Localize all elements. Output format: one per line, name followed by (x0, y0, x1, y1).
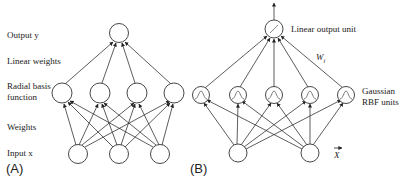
input-node (69, 145, 88, 164)
hidden-node (52, 83, 72, 103)
weight-symbol: W (316, 52, 324, 62)
input-node (151, 145, 170, 164)
gaussian-rbf-nodes (193, 87, 355, 104)
label-input-vector-x: X (334, 150, 340, 160)
weight-subscript: i (324, 58, 326, 64)
input-node (229, 144, 247, 162)
label-linear-weights: Linear weights (7, 56, 61, 66)
label-input-x: Input x (7, 148, 33, 158)
rbf-network-figure: Output y Linear weights Radial basis fun… (0, 0, 401, 182)
panel-a-tag: (A) (6, 161, 23, 176)
label-weights: Weights (7, 122, 36, 132)
panel-a-edges (64, 42, 173, 147)
label-rbf-units: RBF units (362, 97, 399, 107)
label-gaussian: Gaussian (362, 86, 395, 96)
hidden-node (127, 83, 147, 103)
label-linear-output-unit: Linear output unit (291, 24, 356, 34)
panel-b-tag: (B) (190, 161, 207, 176)
input-node (301, 144, 319, 162)
label-radial-basis: Radial basis (7, 81, 51, 91)
hidden-node (164, 83, 184, 103)
panel-a-nodes (52, 24, 184, 164)
label-weight-wi: Wi (316, 52, 325, 66)
output-node (110, 24, 129, 43)
label-output-y: Output y (7, 30, 39, 40)
input-node (110, 145, 129, 164)
label-function: function (7, 92, 37, 102)
panel-b-nodes (193, 20, 355, 162)
hidden-node (90, 83, 110, 103)
